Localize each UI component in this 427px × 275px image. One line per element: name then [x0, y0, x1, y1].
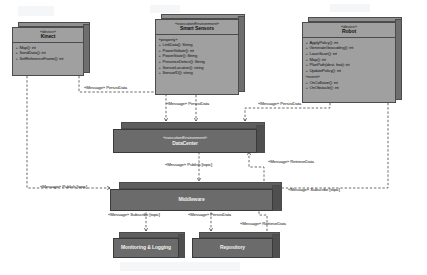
node-header: «device» Robot — [303, 23, 395, 36]
node-name: Repository — [220, 245, 245, 250]
node-name: Robot — [305, 29, 393, 34]
node-repository[interactable]: Repository — [192, 232, 280, 258]
node-header: Repository — [220, 245, 245, 250]
diagram-canvas: «device» Kinect +Map(): int +SendData():… — [0, 0, 427, 275]
node-header: «device» Kinect — [13, 28, 83, 41]
node-header: «executionEnvironment» DataCenter — [163, 136, 207, 145]
node-side-slab — [178, 234, 185, 258]
node-side-slab — [272, 234, 280, 258]
node-header: Middleware — [178, 197, 204, 202]
member-item: +SetReferenceFrame(): int — [16, 56, 82, 62]
node-robot[interactable]: «device» Robot +ApplyPolicy(): int +Gene… — [302, 17, 402, 103]
node-face: Middleware — [110, 189, 273, 211]
edge-middleware-datacenter — [249, 152, 264, 181]
node-face: «executionEnvironment» DataCenter — [113, 129, 257, 153]
node-kinect[interactable]: «device» Kinect +Map(): int +SendData():… — [12, 22, 90, 76]
edge-label-kinect-persistdata: «Message» PersistData — [84, 86, 127, 90]
node-middleware[interactable]: Middleware — [110, 182, 282, 211]
node-side-slab — [83, 24, 90, 73]
node-header: «executionEnvironment» Smart Sensors — [156, 20, 238, 33]
node-members: «property» +LinkData(): String +PowerVol… — [156, 35, 238, 77]
node-members: +Map(): int +SendData(): int +SetReferen… — [13, 43, 83, 63]
node-name: DataCenter — [163, 141, 207, 146]
node-name: Middleware — [178, 197, 204, 202]
node-monitoring-logging[interactable]: Monitoring & Logging — [113, 232, 185, 258]
edge-kinect-datacenter — [79, 76, 166, 121]
edge-label-publish-datacenter: «Message» Publish [topic] — [165, 163, 212, 167]
node-name: Monitoring & Logging — [121, 245, 171, 250]
member-item: +OnObstacle(): int — [306, 85, 394, 91]
node-smart-sensors[interactable]: «executionEnvironment» Smart Sensors «pr… — [155, 14, 245, 95]
node-face: «device» Kinect +Map(): int +SendData():… — [12, 27, 84, 76]
member-item: +SensorID(): string — [159, 70, 237, 76]
node-name: Kinect — [15, 34, 81, 39]
edge-robot-middleware — [272, 103, 388, 188]
node-header: Monitoring & Logging — [121, 245, 171, 250]
member-group-label: «event» — [306, 74, 394, 79]
edge-label-monitoring-subscribe: «Message» Subscribe [topic] — [108, 213, 160, 217]
node-face: Repository — [192, 238, 273, 258]
node-members: +ApplyPolicy(): int +GenerateGeocoding()… — [303, 38, 395, 92]
edge-label-retrievedata-middleware: «Message» RetrieveData — [268, 160, 314, 164]
node-side-slab — [272, 185, 282, 211]
edge-label-kinect-publish: «Message» Publish [topic] — [40, 185, 87, 189]
edge-label-robot-persistdata: «Message» PersistData — [258, 102, 301, 106]
edge-kinect-middleware — [27, 76, 110, 188]
node-top-slab — [119, 182, 282, 189]
member-group-label: «property» — [159, 37, 237, 42]
node-side-slab — [395, 19, 402, 100]
node-top-slab — [121, 122, 265, 129]
node-side-slab — [256, 125, 265, 153]
node-name: Smart Sensors — [158, 26, 236, 31]
node-datacenter[interactable]: «executionEnvironment» DataCenter — [113, 122, 265, 153]
edge-label-sensors-persistdata: «Message» PersistData — [166, 102, 209, 106]
node-face: «device» Robot +ApplyPolicy(): int +Gene… — [302, 22, 396, 103]
edge-label-repository-persistdata: «Message» PersistData — [188, 213, 231, 217]
edge-label-robot-subscribe: «Message» Subscribe [topic] — [288, 188, 340, 192]
node-face: «executionEnvironment» Smart Sensors «pr… — [155, 19, 239, 95]
node-side-slab — [238, 16, 245, 92]
member-item: +UpdatePolicy(): int — [306, 68, 394, 74]
node-face: Monitoring & Logging — [113, 238, 179, 258]
edge-label-repository-retrievedata: «Message» RetrieveData — [240, 222, 286, 226]
